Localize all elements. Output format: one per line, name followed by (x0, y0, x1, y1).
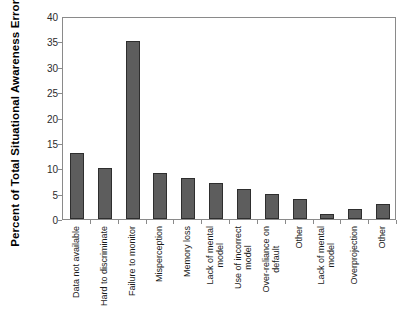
bar (126, 41, 140, 219)
x-axis-tick-label: Other (377, 226, 387, 249)
y-axis-tick-mark (58, 169, 62, 170)
y-axis-tick-mark (58, 68, 62, 69)
x-axis-tick-mark (201, 220, 202, 224)
x-axis-label-slot: Other (368, 226, 396, 321)
x-axis-tick-mark (257, 220, 258, 224)
bar (293, 199, 307, 219)
plot-area (62, 17, 396, 220)
x-axis-tick-mark (340, 220, 341, 224)
y-axis-tick-mark (58, 42, 62, 43)
x-axis-tick-label: Data not available (71, 226, 81, 298)
x-axis-tick-label: Misperception (154, 226, 164, 282)
x-axis-ticks (62, 220, 396, 225)
x-axis-tick-label: Hard to discriminate (99, 226, 109, 306)
y-axis-tick-label: 5 (30, 189, 58, 200)
x-axis-tick-mark (173, 220, 174, 224)
y-axis-tick-label: 30 (30, 62, 58, 73)
x-axis-tick-mark (396, 220, 397, 224)
y-axis-tick-label: 25 (30, 88, 58, 99)
x-axis-label-slot: Overprojection (340, 226, 368, 321)
x-axis-label-slot: Hard to discriminate (90, 226, 118, 321)
y-axis-tick-mark (58, 195, 62, 196)
x-axis-tick-label: Memory loss (182, 226, 192, 277)
bar (348, 209, 362, 219)
x-axis-label-slot: Use of incorrectmodel (229, 226, 257, 321)
x-axis-tick-mark (229, 220, 230, 224)
y-axis-tick-label: 0 (30, 215, 58, 226)
x-axis-tick-label: Over-reliance ondefault (261, 226, 281, 293)
x-axis-tick-mark (285, 220, 286, 224)
y-axis-tick-label: 35 (30, 37, 58, 48)
x-axis-label-slot: Memory loss (173, 226, 201, 321)
x-axis-label-slot: Data not available (62, 226, 90, 321)
bar (320, 214, 334, 219)
y-axis-tick-mark (58, 144, 62, 145)
y-axis-tick-label: 15 (30, 138, 58, 149)
x-axis-tick-mark (118, 220, 119, 224)
x-axis-tick-label: Other (294, 226, 304, 249)
x-axis-tick-mark (313, 220, 314, 224)
x-axis-tick-label: Use of incorrectmodel (233, 226, 253, 289)
y-axis-tick-mark (58, 119, 62, 120)
x-axis-label-slot: Failure to monitor (118, 226, 146, 321)
bar-chart-figure: Percent of Total Situational Awareness E… (0, 0, 408, 323)
bar (98, 168, 112, 219)
x-axis-labels: Data not availableHard to discriminateFa… (62, 226, 396, 321)
x-axis-label-slot: Over-reliance ondefault (257, 226, 285, 321)
bar (153, 173, 167, 219)
x-axis-tick-label: Failure to monitor (127, 226, 137, 296)
bars-container (63, 18, 395, 219)
x-axis-label-slot: Lack of mentalmodel (313, 226, 341, 321)
x-axis-tick-mark (90, 220, 91, 224)
x-axis-tick-label: Lack of mentalmodel (205, 226, 225, 285)
bar (209, 183, 223, 219)
y-axis-tick-label: 10 (30, 164, 58, 175)
y-axis-title: Percent of Total Situational Awareness E… (9, 0, 21, 247)
bar (181, 178, 195, 219)
x-axis-label-slot: Other (285, 226, 313, 321)
x-axis-label-slot: Misperception (146, 226, 174, 321)
y-axis-tick-mark (58, 220, 62, 221)
bar (376, 204, 390, 219)
bar (70, 153, 84, 219)
x-axis-tick-label: Overprojection (349, 226, 359, 285)
x-axis-label-slot: Lack of mentalmodel (201, 226, 229, 321)
y-axis-tick-label: 40 (30, 12, 58, 23)
bar (237, 189, 251, 219)
y-axis-tick-label: 20 (30, 113, 58, 124)
bar (265, 194, 279, 219)
y-axis-title-container: Percent of Total Situational Awareness E… (0, 0, 30, 240)
x-axis-tick-label: Lack of mentalmodel (316, 226, 336, 285)
x-axis-tick-mark (146, 220, 147, 224)
y-axis-tick-mark (58, 93, 62, 94)
x-axis-tick-mark (368, 220, 369, 224)
